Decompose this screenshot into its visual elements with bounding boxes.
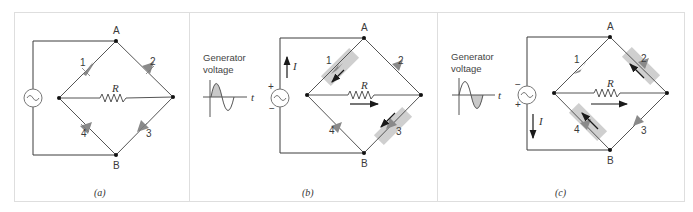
waveform-plot xyxy=(203,80,247,117)
bridge-rectifier-figure: A B R 1 2 3 4 (a) Generator voltage t + … xyxy=(0,0,693,212)
label-resistor: R xyxy=(360,79,368,91)
highlight-diode-1 xyxy=(321,48,359,86)
label-diode-1: 1 xyxy=(80,57,86,68)
node-b xyxy=(114,153,118,157)
polarity-bottom: − xyxy=(269,103,275,114)
waveform-plot xyxy=(452,78,495,115)
node-right xyxy=(665,91,669,95)
node-b xyxy=(362,151,366,155)
label-diode-4: 4 xyxy=(574,124,580,135)
polarity-top: + xyxy=(268,81,274,92)
polarity-top: − xyxy=(515,79,521,90)
label-node-b: B xyxy=(607,155,614,166)
panel-b: Generator voltage t + − I xyxy=(203,22,423,199)
waveform-title-line2: voltage xyxy=(451,63,482,74)
wire-bottom xyxy=(280,107,364,153)
label-node-a: A xyxy=(607,21,614,32)
resistor-r xyxy=(307,91,421,99)
waveform-axis-t: t xyxy=(251,91,255,103)
label-diode-2: 2 xyxy=(398,55,404,66)
label-current: I xyxy=(292,60,298,72)
caption-c: (c) xyxy=(555,187,567,199)
label-diode-3: 3 xyxy=(641,125,647,136)
label-diode-2: 2 xyxy=(641,53,647,64)
label-resistor: R xyxy=(606,77,614,89)
node-right xyxy=(419,93,423,97)
node-left xyxy=(57,96,61,100)
waveform-title-line1: Generator xyxy=(451,51,494,62)
panel-c: Generator voltage t − + I xyxy=(451,21,669,199)
resistor-r xyxy=(59,94,173,102)
label-diode-4: 4 xyxy=(81,128,87,139)
node-left xyxy=(305,93,309,97)
label-current: I xyxy=(538,115,544,127)
node-right xyxy=(171,95,175,99)
label-diode-1: 1 xyxy=(574,54,580,65)
node-a xyxy=(114,39,118,43)
waveform-title-line1: Generator xyxy=(203,52,246,63)
label-diode-1: 1 xyxy=(326,55,332,66)
ac-source-icon xyxy=(24,89,42,107)
label-node-b: B xyxy=(113,160,120,171)
resistor-r xyxy=(554,89,667,97)
node-a xyxy=(608,35,612,39)
label-node-b: B xyxy=(361,158,368,169)
label-diode-4: 4 xyxy=(329,125,335,136)
waveform-axis-t: t xyxy=(498,89,502,101)
label-resistor: R xyxy=(111,82,119,94)
node-a xyxy=(362,36,366,40)
label-node-a: A xyxy=(113,25,120,36)
label-diode-3: 3 xyxy=(396,126,402,137)
label-node-a: A xyxy=(361,22,368,33)
label-diode-3: 3 xyxy=(146,128,152,139)
node-b xyxy=(608,148,612,152)
panel-a: A B R 1 2 3 4 (a) xyxy=(24,25,175,199)
label-diode-2: 2 xyxy=(150,56,156,67)
caption-a: (a) xyxy=(94,187,106,199)
caption-b: (b) xyxy=(302,187,314,199)
polarity-bottom: + xyxy=(515,99,521,110)
waveform-title-line2: voltage xyxy=(203,64,234,75)
node-left xyxy=(552,91,556,95)
